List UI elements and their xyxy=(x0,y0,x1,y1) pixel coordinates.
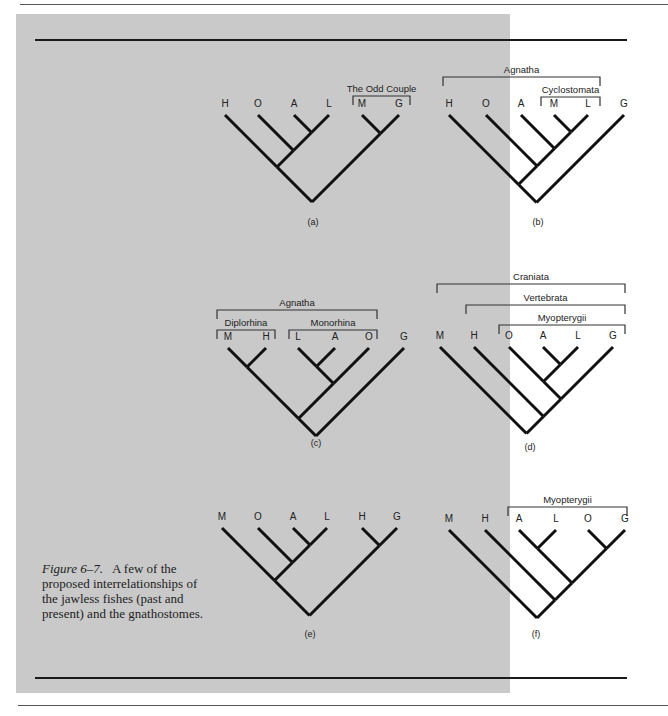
branch-line xyxy=(258,528,293,563)
branch-line xyxy=(538,530,557,549)
branch-line xyxy=(474,347,544,417)
taxon-label-L: L xyxy=(585,98,591,109)
branch-line xyxy=(449,530,537,618)
taxon-label-M: M xyxy=(218,511,226,522)
branch-line xyxy=(519,166,538,185)
branch-line xyxy=(537,149,555,167)
panel-label: (c) xyxy=(311,438,322,448)
taxon-label-G: G xyxy=(620,98,628,109)
clade-label: Myopterygii xyxy=(543,494,592,505)
branch-line xyxy=(380,528,398,546)
branch-line xyxy=(538,549,573,584)
branch-line xyxy=(544,399,562,417)
taxon-label-G: G xyxy=(393,511,401,522)
branch-line xyxy=(571,115,588,132)
clade-label: Cyclostomata xyxy=(542,84,600,95)
branch-line xyxy=(543,347,561,365)
branch-line xyxy=(519,530,538,549)
taxon-label-H: H xyxy=(221,98,228,109)
taxon-label-A: A xyxy=(290,511,297,522)
cladogram-panel-e: MOALHG(e) xyxy=(218,511,401,639)
panel-label: (f) xyxy=(532,629,541,639)
panel-label: (a) xyxy=(308,217,319,227)
branch-line xyxy=(294,133,312,151)
branch-line xyxy=(228,348,247,367)
taxon-label-A: A xyxy=(540,330,547,341)
taxon-label-M: M xyxy=(445,513,453,524)
branch-line xyxy=(298,348,317,367)
clade-label: The Odd Couple xyxy=(347,83,417,94)
taxon-label-L: L xyxy=(553,513,559,524)
branch-line xyxy=(362,528,380,546)
taxon-label-M: M xyxy=(224,331,232,342)
cladogram-panel-c: MHLAOGAgnathaDiplorhinaMonorhina(c) xyxy=(217,297,408,448)
clade-label: Diplorhina xyxy=(225,317,268,328)
branch-line xyxy=(316,348,404,436)
branch-line xyxy=(299,384,334,419)
branch-line xyxy=(247,367,299,419)
branch-line xyxy=(519,185,537,203)
cladogram-panel-f: MHALOGMyopterygii(f) xyxy=(445,494,629,639)
panel-label: (b) xyxy=(533,217,544,227)
cladogram-panel-d: MHOALGCraniataVertebrataMyopterygii(d) xyxy=(436,271,625,452)
clade-bracket xyxy=(499,325,625,334)
branch-line xyxy=(258,115,294,151)
taxon-label-M: M xyxy=(550,98,558,109)
taxon-label-O: O xyxy=(254,98,262,109)
branch-line xyxy=(334,348,370,384)
cladogram-panel-b: HOAMLGAgnathaCyclostomata(b) xyxy=(443,64,628,227)
clade-label: Myopterygii xyxy=(538,312,587,323)
branch-line xyxy=(537,600,555,618)
figure-caption: Figure 6–7. A few of the proposed interr… xyxy=(42,561,212,621)
branch-line xyxy=(588,530,607,549)
taxon-label-O: O xyxy=(584,513,592,524)
branch-line xyxy=(544,382,562,400)
branch-line xyxy=(293,528,310,545)
branch-line xyxy=(294,115,312,133)
taxon-label-A: A xyxy=(516,513,523,524)
branch-line xyxy=(449,115,519,185)
taxon-label-A: A xyxy=(332,331,339,342)
branch-line xyxy=(607,530,626,549)
taxon-label-M: M xyxy=(436,330,444,341)
taxon-label-H: H xyxy=(445,98,452,109)
taxon-label-H: H xyxy=(470,330,477,341)
taxon-label-A: A xyxy=(291,98,298,109)
taxon-label-H: H xyxy=(358,511,365,522)
taxon-label-O: O xyxy=(505,330,513,341)
cladogram-panel-a: HOALMGThe Odd Couple(a) xyxy=(221,83,416,227)
taxon-label-G: G xyxy=(609,330,617,341)
branch-line xyxy=(275,581,310,616)
taxon-label-A: A xyxy=(518,98,525,109)
taxon-label-L: L xyxy=(575,330,581,341)
taxon-label-O: O xyxy=(365,331,373,342)
branch-line xyxy=(561,347,579,365)
branch-line xyxy=(310,528,327,545)
branch-line xyxy=(275,563,293,581)
taxon-label-O: O xyxy=(254,511,262,522)
branch-line xyxy=(555,132,572,149)
taxon-label-H: H xyxy=(481,513,488,524)
branch-line xyxy=(572,549,607,584)
branch-line xyxy=(554,115,571,132)
branch-line xyxy=(317,367,334,384)
taxon-label-G: G xyxy=(395,98,403,109)
branch-line xyxy=(440,347,527,434)
branch-line xyxy=(299,419,317,437)
branch-line xyxy=(277,151,294,168)
taxon-label-H: H xyxy=(262,331,269,342)
branch-line xyxy=(381,115,400,134)
branch-line xyxy=(527,417,544,434)
branch-line xyxy=(225,115,277,167)
branch-line xyxy=(521,115,555,149)
taxon-label-L: L xyxy=(326,98,332,109)
clade-bracket xyxy=(508,507,627,516)
branch-line xyxy=(317,348,336,367)
branch-line xyxy=(537,115,625,203)
branch-line xyxy=(555,583,572,600)
branch-line xyxy=(312,115,330,133)
branch-line xyxy=(277,167,312,202)
clade-label: Vertebrata xyxy=(524,292,569,303)
clade-label: Agnatha xyxy=(504,64,540,75)
branch-line xyxy=(312,134,381,203)
